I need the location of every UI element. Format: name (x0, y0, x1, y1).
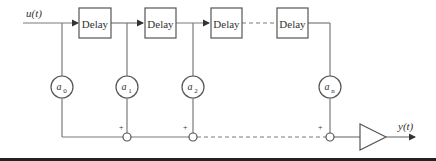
plus-sign: + (183, 123, 188, 132)
coefficient-a0: a 0 (51, 76, 73, 98)
coefficient-a1: a 1 (116, 76, 138, 98)
svg-text:2: 2 (194, 87, 198, 95)
plus-sign: + (318, 123, 323, 132)
delay-label: Delay (147, 18, 174, 30)
svg-text:a: a (57, 81, 62, 92)
delay-block-n: Delay (277, 8, 308, 38)
svg-text:0: 0 (63, 87, 67, 95)
delay-label: Delay (82, 18, 109, 30)
delay-label: Delay (279, 18, 306, 30)
fir-filter-diagram: Delay Delay Delay Delay u(t) a 0 a 1 a 2… (0, 0, 436, 161)
coefficient-a2: a 2 (182, 76, 204, 98)
svg-text:a: a (122, 81, 127, 92)
svg-text:1: 1 (128, 87, 132, 95)
amplifier-triangle-icon (360, 124, 386, 150)
svg-text:a: a (325, 81, 330, 92)
svg-text:n: n (331, 87, 335, 95)
coefficient-an: a n (319, 76, 341, 98)
delay-block-1: Delay (79, 8, 111, 38)
plus-sign: + (119, 123, 124, 132)
sum-node-1 (123, 133, 131, 141)
sum-node-n (326, 133, 334, 141)
svg-text:a: a (188, 81, 193, 92)
input-label: u(t) (26, 7, 42, 20)
output-label: y(t) (397, 120, 414, 133)
delay-block-3: Delay (211, 8, 242, 38)
delay-label: Delay (213, 18, 240, 30)
delay-block-2: Delay (145, 8, 176, 38)
sum-node-2 (189, 133, 197, 141)
